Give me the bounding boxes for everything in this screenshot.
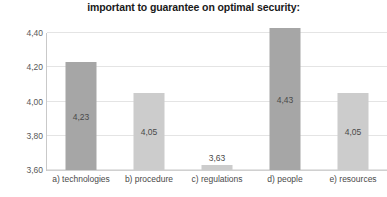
plot-area: 4,234,053,634,434,05 <box>47 33 387 170</box>
x-axis-tick-label: b) procedure <box>115 174 183 184</box>
y-axis-tick-label: 3,80 <box>3 131 43 141</box>
bar-group: 3,63 <box>183 33 251 170</box>
bar[interactable] <box>202 165 233 170</box>
bar-group: 4,43 <box>251 33 319 170</box>
y-axis-tick-label: 4,00 <box>3 97 43 107</box>
bar-value-label: 4,05 <box>345 127 362 137</box>
y-axis: 3,603,804,004,204,40 <box>0 0 43 197</box>
x-axis-tick-label: e) resources <box>319 174 387 184</box>
bar-group: 4,05 <box>115 33 183 170</box>
bar-group: 4,05 <box>319 33 387 170</box>
bar-group: 4,23 <box>47 33 115 170</box>
y-axis-tick-label: 4,20 <box>3 62 43 72</box>
y-axis-tick-label: 4,40 <box>3 28 43 38</box>
x-axis: a) technologiesb) procedurec) regulation… <box>47 174 387 194</box>
y-axis-tick-label: 3,60 <box>3 165 43 175</box>
bar-chart: important to guarantee on optimal securi… <box>0 0 387 197</box>
chart-title: important to guarantee on optimal securi… <box>0 1 387 13</box>
x-axis-tick-label: d) people <box>251 174 319 184</box>
bar-value-label: 4,05 <box>141 127 158 137</box>
x-axis-tick-label: a) technologies <box>47 174 115 184</box>
x-axis-line <box>47 170 387 171</box>
bar-value-label: 4,23 <box>73 112 90 122</box>
bar-value-label: 3,63 <box>209 153 226 163</box>
x-axis-tick-label: c) regulations <box>183 174 251 184</box>
bar-value-label: 4,43 <box>277 95 294 105</box>
